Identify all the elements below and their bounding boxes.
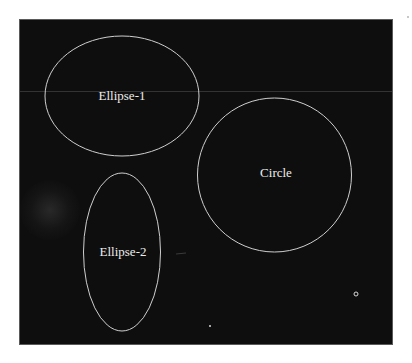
ellipse-2-label: Ellipse-2 (100, 244, 147, 259)
dot-marker (209, 325, 211, 327)
ellipse-2-shape[interactable]: Ellipse-2 (84, 173, 161, 331)
page-speck (407, 16, 409, 18)
ellipse-1-label: Ellipse-1 (99, 88, 146, 103)
shapes-layer: Ellipse-1 Circle Ellipse-2 (0, 0, 412, 363)
dash-artifact (176, 253, 186, 254)
circle-shape[interactable]: Circle (198, 98, 352, 252)
small-ring-marker (354, 292, 358, 296)
circle-label: Circle (260, 165, 292, 180)
ellipse-1-shape[interactable]: Ellipse-1 (45, 36, 199, 156)
